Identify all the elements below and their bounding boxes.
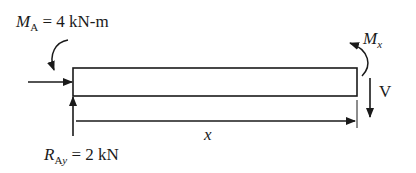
distance-x-label: x xyxy=(203,125,212,144)
moment-a-arrow-icon xyxy=(52,40,68,70)
reaction-ay-label: RAy = 2 kN xyxy=(43,145,119,166)
shear-v-label: V xyxy=(379,82,392,101)
moment-a-label: MA = 4 kN-m xyxy=(15,12,109,33)
moment-mx-label: Mx xyxy=(362,29,382,50)
free-body-diagram: MA = 4 kN-m RAy = 2 kN x Mx V xyxy=(0,0,416,173)
beam xyxy=(73,68,357,96)
